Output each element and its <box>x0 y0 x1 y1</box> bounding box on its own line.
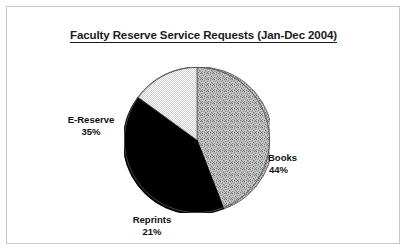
chart-canvas: Faculty Reserve Service Requests (Jan-De… <box>0 0 407 251</box>
pie-label-ereserve: E-Reserve 35% <box>57 114 125 137</box>
chart-title-text: Faculty Reserve Service Requests (Jan-De… <box>70 29 337 43</box>
pie-chart-svg <box>124 67 270 213</box>
pie-label-reprints: Reprints 21% <box>118 214 186 237</box>
pie-label-books: Books 44% <box>268 152 297 175</box>
pie-label-books-value: 44% <box>268 164 297 176</box>
pie-label-ereserve-value: 35% <box>57 126 125 138</box>
pie-label-reprints-name: Reprints <box>133 214 172 225</box>
chart-title: Faculty Reserve Service Requests (Jan-De… <box>0 29 407 41</box>
pie-label-books-name: Books <box>268 152 297 163</box>
pie-label-ereserve-name: E-Reserve <box>68 114 114 125</box>
pie-label-reprints-value: 21% <box>118 226 186 238</box>
pie-chart <box>124 67 270 213</box>
